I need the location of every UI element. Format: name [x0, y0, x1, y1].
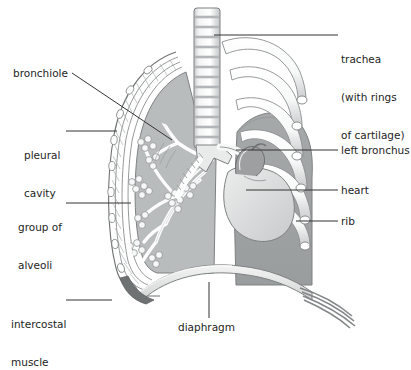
label-trachea-line2: (with rings	[341, 91, 405, 104]
label-intercostal-muscle-line1: intercostal	[11, 318, 66, 331]
label-trachea-line3: of cartilage)	[341, 129, 405, 142]
label-pleural-cavity-line1: pleural	[24, 149, 60, 162]
label-left-bronchus: left bronchus	[341, 144, 410, 157]
diaphragm-fibers	[300, 288, 355, 328]
label-heart: heart	[341, 184, 369, 197]
label-bronchiole: bronchiole	[13, 67, 68, 80]
label-group-of-alveoli-line1: group of	[18, 221, 62, 234]
trachea	[194, 8, 220, 148]
label-diaphragm: diaphragm	[178, 321, 235, 334]
label-group-of-alveoli-line2: alveoli	[18, 259, 62, 272]
label-intercostal-muscle-line2: muscle	[11, 356, 66, 369]
label-intercostal-muscle: intercostal muscle	[11, 293, 66, 370]
label-trachea-line1: trachea	[341, 53, 405, 66]
label-group-of-alveoli: group of alveoli	[18, 196, 62, 297]
label-rib: rib	[341, 215, 355, 228]
